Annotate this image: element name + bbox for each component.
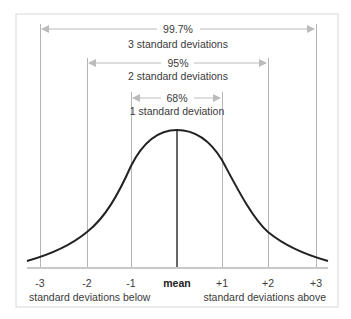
range-1sd-label: 1 standard deviation	[130, 105, 225, 117]
tick-minus-2: -2	[82, 277, 91, 289]
tick-plus-3: +3	[310, 277, 322, 289]
tick-plus-1: +1	[216, 277, 228, 289]
range-3sd-percent: 99.7%	[163, 23, 193, 35]
below-label: standard deviations below	[29, 291, 151, 303]
tick-minus-3: -3	[35, 277, 44, 289]
range-3sd-label: 3 standard deviations	[128, 38, 228, 50]
normal-distribution-diagram: 99.7% 3 standard deviations 95% 2 standa…	[0, 0, 351, 319]
tick-plus-2: +2	[262, 277, 274, 289]
range-2sd-label: 2 standard deviations	[128, 70, 228, 82]
range-1sd-percent: 68%	[166, 92, 187, 104]
above-label: standard deviations above	[203, 291, 326, 303]
range-2sd-percent: 95%	[167, 57, 188, 69]
tick-mean: mean	[163, 277, 190, 289]
tick-minus-1: -1	[126, 277, 135, 289]
